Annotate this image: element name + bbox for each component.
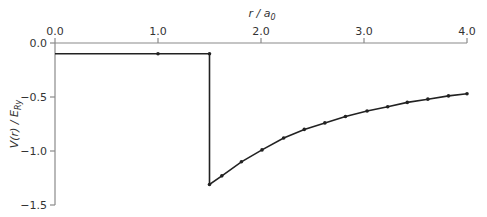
- x-axis-title: r / a0: [248, 7, 275, 22]
- data-point: [260, 148, 264, 152]
- data-point: [302, 128, 306, 132]
- x-tick-label: 2.0: [252, 25, 270, 38]
- data-point: [208, 52, 212, 56]
- y-tick-label: −0.5: [20, 91, 47, 104]
- data-point: [344, 115, 348, 119]
- data-point: [386, 105, 390, 109]
- data-point: [156, 52, 160, 56]
- data-point: [220, 174, 224, 178]
- series-line: [55, 54, 467, 185]
- data-point: [405, 101, 409, 105]
- x-tick-label: 1.0: [149, 25, 167, 38]
- y-tick-label: −1.5: [20, 199, 47, 212]
- data-point: [282, 136, 286, 140]
- data-point: [208, 183, 212, 187]
- y-tick-label: −1.0: [20, 145, 47, 158]
- chart: 0.01.02.03.04.00.0−0.5−1.0−1.5 r / a0 V(…: [0, 0, 487, 217]
- x-tick-label: 0.0: [46, 25, 64, 38]
- data-point: [426, 97, 430, 101]
- data-point: [447, 94, 451, 98]
- y-axis-title: V(r) / ERy: [8, 99, 23, 148]
- data-point: [365, 109, 369, 113]
- x-tick-label: 4.0: [458, 25, 476, 38]
- data-point: [323, 121, 327, 125]
- plot-area: [55, 52, 469, 186]
- x-tick-label: 3.0: [355, 25, 373, 38]
- data-point: [240, 160, 244, 164]
- y-tick-label: 0.0: [30, 37, 48, 50]
- data-point: [465, 92, 469, 96]
